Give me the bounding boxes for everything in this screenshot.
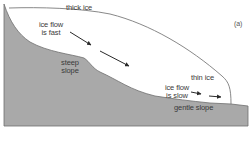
slow-flow-label: ice flow is slow <box>163 84 191 100</box>
glacier-flow-diagram: thick ice ice flow is fast steep slope t… <box>0 0 250 145</box>
fast-flow-label: ice flow is fast <box>36 21 66 37</box>
fast-flow-label-line2: is fast <box>36 29 66 37</box>
thick-ice-label: thick ice <box>66 4 92 12</box>
slow-flow-label-line2: is slow <box>163 92 191 100</box>
gentle-slope-label: gentle slope <box>174 104 213 112</box>
steep-slope-label-line2: slope <box>58 67 82 75</box>
panel-label: (a) <box>234 20 242 28</box>
steep-slope-label: steep slope <box>58 59 82 75</box>
thin-ice-label: thin ice <box>191 74 214 82</box>
